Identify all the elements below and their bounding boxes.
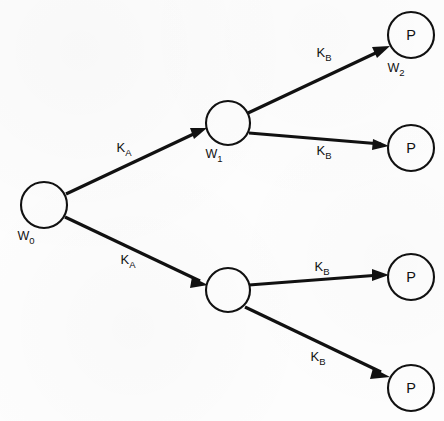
edge-w0-to-mid-lower: KA [65,217,208,288]
edge-mid-lower-to-p4: KB [245,307,390,379]
node-p4[interactable]: P [388,365,434,411]
node-p1[interactable]: P W2 [387,12,434,78]
arrow-head-icon [372,139,389,150]
edge-label-ka-lower: KA [120,252,136,270]
arrow-head-icon [190,128,207,139]
edge-line [65,217,200,281]
node-circle[interactable] [206,268,250,312]
edge-mid-lower-to-p3: KB [249,259,389,285]
edge-label-kb-4: KB [310,349,325,367]
branching-tree-diagram: KA KA KB KB [0,0,444,421]
edge-label-kb-3: KB [314,259,329,277]
edge-line [249,133,381,144]
node-w1[interactable]: W1 [205,101,250,164]
node-label-w0: W0 [17,229,34,246]
node-mid-lower[interactable] [206,268,250,312]
arrow-head-icon [372,269,389,281]
node-p3[interactable]: P [388,254,434,300]
edge-line [248,50,382,113]
node-p2[interactable]: P [388,125,434,171]
node-label-w2: W2 [387,61,404,78]
edge-w0-to-w1: KA [66,128,207,194]
edge-w1-to-p2: KB [249,133,389,161]
node-text-p2: P [406,140,416,156]
edge-line [249,275,380,285]
diagram-canvas: KA KA KB KB [0,0,444,421]
arrow-head-icon [372,46,390,58]
node-label-w1: W1 [205,147,222,164]
node-text-p3: P [406,269,416,285]
arrow-head-icon [370,368,390,379]
node-text-p4: P [406,380,416,396]
edge-line [66,131,200,194]
edge-label-ka-upper: KA [116,140,132,158]
node-text-p1: P [406,27,416,43]
edge-label-kb-1: KB [316,45,331,63]
node-circle[interactable] [206,101,250,145]
edge-label-kb-2: KB [316,143,331,161]
edge-w1-to-p1: KB [248,45,390,113]
node-circle[interactable] [21,182,67,228]
node-w0[interactable]: W0 [17,182,67,246]
